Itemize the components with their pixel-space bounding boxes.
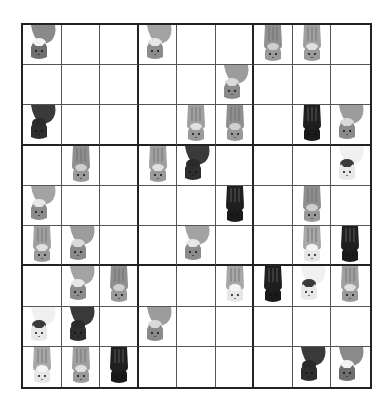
cell-r2-c4[interactable] [139,65,178,105]
cell-r4-c3[interactable] [100,146,139,186]
cell-r9-c6[interactable] [216,347,255,387]
cell-r8-c8[interactable] [293,307,332,347]
cell-r6-c2[interactable] [62,226,101,266]
cell-r1-c6[interactable] [216,25,255,65]
cell-r5-c1[interactable] [23,186,62,226]
cell-r9-c1[interactable] [23,347,62,387]
cell-r6-c5[interactable] [177,226,216,266]
light-striped-cat-icon [64,347,98,385]
cell-r9-c8[interactable] [293,347,332,387]
cell-r6-c6[interactable] [216,226,255,266]
cell-r8-c2[interactable] [62,307,101,347]
light-striped-cat-icon [25,226,59,264]
cell-r3-c7[interactable] [254,105,293,145]
black-curled-cat-icon [179,146,213,184]
cell-r1-c8[interactable] [293,25,332,65]
cell-r5-c3[interactable] [100,186,139,226]
light-striped-cat-icon [141,146,175,184]
cell-r8-c9[interactable] [331,307,370,347]
cell-r4-c5[interactable] [177,146,216,186]
cell-r8-c1[interactable] [23,307,62,347]
cell-r6-c1[interactable] [23,226,62,266]
gray-fluffy-cat-icon [64,266,98,304]
black-curled-cat-icon [64,307,98,345]
gray-curled-fluffy-cat-icon [218,65,252,103]
cell-r8-c7[interactable] [254,307,293,347]
cell-r1-c7[interactable] [254,25,293,65]
cell-r7-c5[interactable] [177,266,216,306]
cell-r8-c5[interactable] [177,307,216,347]
light-tabby-white-cat-icon [25,347,59,385]
cell-r7-c1[interactable] [23,266,62,306]
cell-r5-c7[interactable] [254,186,293,226]
sudoku-board [21,23,372,389]
cell-r4-c6[interactable] [216,146,255,186]
cell-r2-c1[interactable] [23,65,62,105]
cell-r9-c2[interactable] [62,347,101,387]
cell-r7-c4[interactable] [139,266,178,306]
cell-r4-c9[interactable] [331,146,370,186]
cell-r9-c7[interactable] [254,347,293,387]
cell-r6-c8[interactable] [293,226,332,266]
striped-tabby-cat-icon [218,105,252,143]
cell-r5-c5[interactable] [177,186,216,226]
cell-r8-c6[interactable] [216,307,255,347]
cell-r4-c8[interactable] [293,146,332,186]
striped-tabby-cat-icon [256,25,290,63]
striped-tabby-cat-icon [64,146,98,184]
cell-r5-c4[interactable] [139,186,178,226]
gray-fluffy-cat-icon [179,226,213,264]
cell-r6-c9[interactable] [331,226,370,266]
light-striped-cat-icon [333,266,367,304]
cell-r4-c1[interactable] [23,146,62,186]
cell-r7-c2[interactable] [62,266,101,306]
cell-r9-c9[interactable] [331,347,370,387]
cell-r2-c9[interactable] [331,65,370,105]
cell-r1-c4[interactable] [139,25,178,65]
cell-r6-c7[interactable] [254,226,293,266]
cell-r7-c8[interactable] [293,266,332,306]
cell-r4-c7[interactable] [254,146,293,186]
cell-r7-c9[interactable] [331,266,370,306]
cell-r3-c2[interactable] [62,105,101,145]
cell-r8-c4[interactable] [139,307,178,347]
gray-curled-fluffy-cat-icon [141,307,175,345]
cell-r9-c3[interactable] [100,347,139,387]
cell-r6-c3[interactable] [100,226,139,266]
cell-r3-c5[interactable] [177,105,216,145]
cell-r2-c8[interactable] [293,65,332,105]
cell-r2-c3[interactable] [100,65,139,105]
cell-r5-c2[interactable] [62,186,101,226]
cell-r3-c3[interactable] [100,105,139,145]
cell-r6-c4[interactable] [139,226,178,266]
gray-curled-cat-icon [25,25,59,63]
cell-r3-c1[interactable] [23,105,62,145]
cell-r3-c6[interactable] [216,105,255,145]
cell-r2-c2[interactable] [62,65,101,105]
light-striped-cat-icon [179,105,213,143]
cell-r1-c1[interactable] [23,25,62,65]
cell-r1-c5[interactable] [177,25,216,65]
cell-r4-c4[interactable] [139,146,178,186]
cell-r2-c7[interactable] [254,65,293,105]
cell-r9-c4[interactable] [139,347,178,387]
cell-r5-c9[interactable] [331,186,370,226]
gray-curled-fluffy-cat-icon [64,226,98,264]
cell-r8-c3[interactable] [100,307,139,347]
cell-r7-c6[interactable] [216,266,255,306]
cell-r1-c2[interactable] [62,25,101,65]
cell-r9-c5[interactable] [177,347,216,387]
cell-r2-c6[interactable] [216,65,255,105]
cell-r3-c4[interactable] [139,105,178,145]
cell-r1-c9[interactable] [331,25,370,65]
cell-r7-c3[interactable] [100,266,139,306]
cell-r3-c9[interactable] [331,105,370,145]
cell-r7-c7[interactable] [254,266,293,306]
cell-r3-c8[interactable] [293,105,332,145]
cell-r1-c3[interactable] [100,25,139,65]
cell-r2-c5[interactable] [177,65,216,105]
cell-r5-c6[interactable] [216,186,255,226]
light-tabby-white-cat-icon [218,266,252,304]
cell-r4-c2[interactable] [62,146,101,186]
cell-r5-c8[interactable] [293,186,332,226]
